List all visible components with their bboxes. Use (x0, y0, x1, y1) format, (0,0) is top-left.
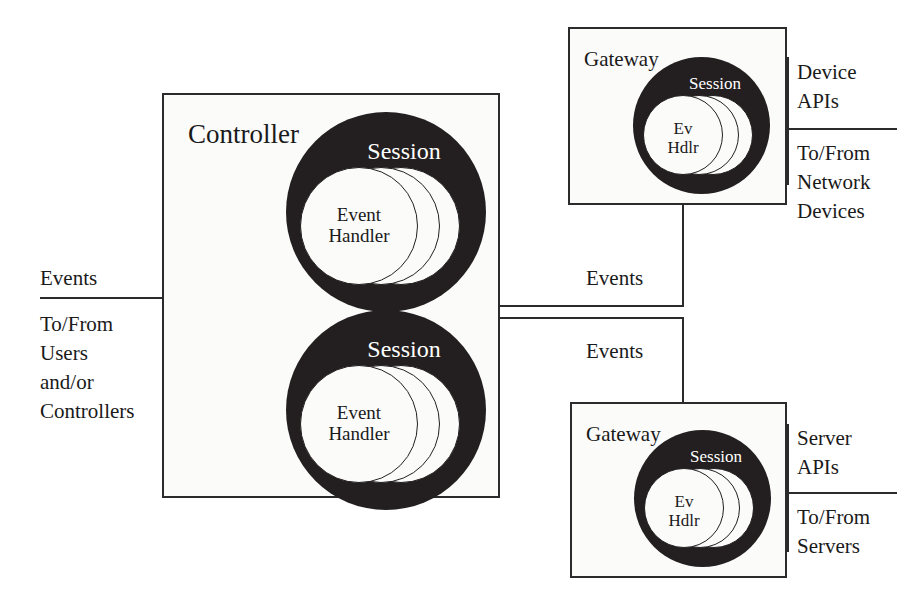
event-handler-label: Ev Hdlr (644, 492, 724, 530)
event-handler-label: Event Handler (300, 204, 418, 247)
gateway-1-interface-vertical (787, 57, 789, 185)
left-endpoint-line2: Users (40, 339, 88, 367)
event-handler-line2: Handler (300, 225, 418, 246)
gateway-2-session[interactable]: Session Ev Hdlr (634, 430, 771, 567)
connector-top-vertical (682, 205, 684, 307)
gateway-2-endpoint-line2: Servers (797, 532, 860, 560)
session-title: Session (344, 139, 464, 163)
connector-top-horizontal (500, 305, 684, 307)
event-handler-label: Ev Hdlr (643, 119, 723, 157)
gateway-1-endpoint-line2: Network (797, 168, 870, 196)
controller-session-1[interactable]: Session Event Handler (286, 112, 486, 312)
left-events-label: Events (40, 268, 97, 289)
gateway-label: Gateway (584, 49, 659, 70)
event-handler-line2: Handler (300, 423, 418, 444)
connector-bottom-horizontal (500, 317, 684, 319)
left-endpoint-line3: and/or (40, 368, 94, 396)
gateway-label: Gateway (586, 424, 661, 445)
gateway-1-api-line2: APIs (797, 87, 839, 115)
gateway-1-interface-line (787, 128, 897, 130)
event-handler-line1: Event (300, 204, 418, 225)
left-endpoint-line4: Controllers (40, 397, 135, 425)
gateway-2-endpoint-line1: To/From (797, 503, 870, 531)
event-handler-line2: Hdlr (643, 138, 723, 157)
event-handler-line1: Ev (643, 119, 723, 138)
session-title: Session (344, 337, 464, 361)
gateway-1-endpoint-line3: Devices (797, 197, 865, 225)
gateway-1-session[interactable]: Session Ev Hdlr (633, 57, 770, 194)
event-handler-line2: Hdlr (644, 511, 724, 530)
session-title: Session (672, 448, 760, 465)
event-handler-line1: Ev (644, 492, 724, 511)
left-interface-line (40, 297, 164, 299)
diagram-canvas: Events To/From Users and/or Controllers … (0, 0, 917, 610)
controller-session-2[interactable]: Session Event Handler (286, 310, 486, 510)
event-handler-line1: Event (300, 402, 418, 423)
connector-bottom-events-label: Events (586, 341, 643, 362)
connector-top-events-label: Events (586, 268, 643, 289)
controller-label: Controller (188, 121, 299, 148)
gateway-2-api-line2: APIs (797, 453, 839, 481)
session-title: Session (671, 75, 759, 92)
gateway-1-endpoint-line1: To/From (797, 139, 870, 167)
gateway-1-api-line1: Device (797, 58, 856, 86)
gateway-2-interface-vertical (787, 424, 789, 552)
gateway-2-interface-line (787, 492, 897, 494)
connector-bottom-vertical (682, 317, 684, 402)
event-handler-label: Event Handler (300, 402, 418, 445)
gateway-2-api-line1: Server (797, 424, 852, 452)
left-endpoint-line1: To/From (40, 310, 113, 338)
